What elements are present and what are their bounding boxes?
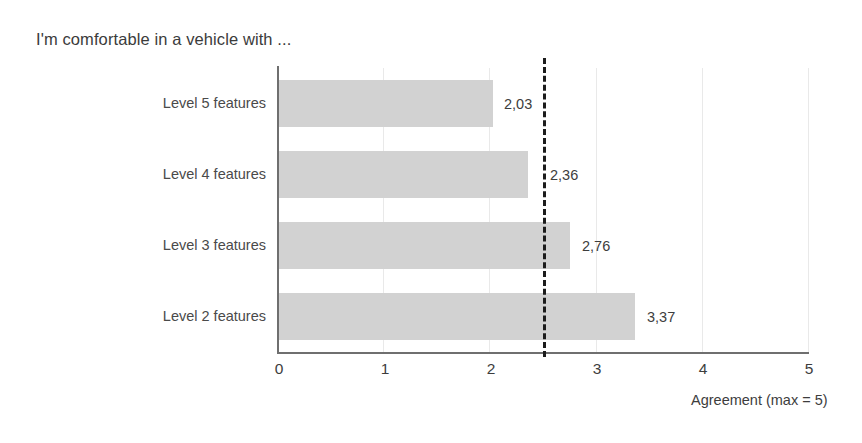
bar-level-2 [277,293,635,340]
x-axis-title: Agreement (max = 5) [691,392,828,408]
category-label-level-3: Level 3 features [120,237,266,253]
xtick-label-2: 2 [487,360,496,378]
xtick-label-4: 4 [699,360,708,378]
bar-value-level-3: 2,76 [582,238,610,254]
y-axis-line [277,66,279,354]
category-label-level-5: Level 5 features [120,95,266,111]
xtick-label-5: 5 [805,360,814,378]
xtick-label-3: 3 [593,360,602,378]
bar-value-level-2: 3,37 [647,309,675,325]
chart-title: I'm comfortable in a vehicle with ... [36,30,291,49]
bar-value-level-5: 2,03 [504,96,532,112]
xtick-label-1: 1 [381,360,390,378]
gridline-4 [702,68,703,353]
category-label-level-4: Level 4 features [120,166,266,182]
chart-figure: I'm comfortable in a vehicle with ... 2,… [0,0,862,443]
xtick-label-0: 0 [275,360,284,378]
category-label-level-2: Level 2 features [120,308,266,324]
bar-level-5 [277,80,493,127]
bar-value-level-4: 2,36 [550,167,578,183]
neutral-threshold-line [543,58,546,357]
gridline-5 [808,68,809,353]
bar-level-3 [277,222,570,269]
bar-level-4 [277,151,528,198]
